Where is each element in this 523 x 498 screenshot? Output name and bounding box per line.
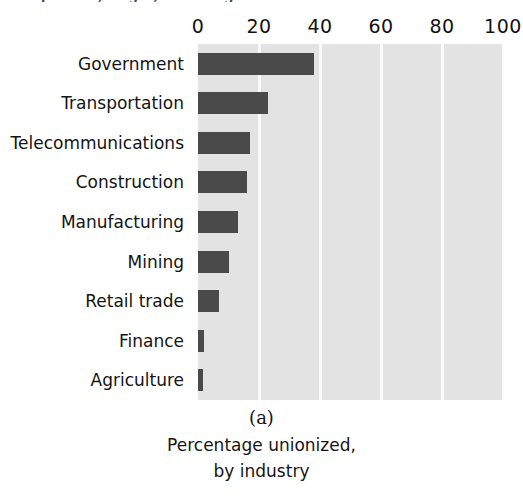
x-tick-label: 0 [192,14,205,38]
gridline [319,44,322,400]
gridline [380,44,383,400]
bar [198,211,238,233]
caption-line-1: Percentage unionized, [0,432,523,458]
category-label: Telecommunications [11,133,184,153]
x-tick-label: 80 [429,14,454,38]
gridline [502,44,504,400]
category-label: Transportation [61,93,184,113]
x-tick-label: 40 [307,14,332,38]
caption-letter: (a) [0,404,523,432]
category-label: Agriculture [91,370,185,390]
bar [198,369,203,391]
x-tick-label: 20 [246,14,271,38]
bar-chart-figure: 020406080100 GovernmentTransportationTel… [0,0,523,498]
bar [198,290,219,312]
bar [198,171,247,193]
gridline [441,44,444,400]
category-label: Government [78,54,184,74]
category-label: Retail trade [85,291,184,311]
plot-area [198,44,503,400]
figure-caption: (a) Percentage unionized, by industry [0,404,523,484]
bar [198,330,204,352]
bar [198,53,314,75]
bar [198,251,229,273]
category-label: Construction [76,172,184,192]
caption-line-2: by industry [0,458,523,484]
x-axis-tick-labels: 020406080100 [198,14,503,42]
x-tick-label: 100 [484,14,522,38]
category-label: Manufacturing [61,212,184,232]
category-label: Finance [119,331,184,351]
category-label: Mining [128,252,184,272]
y-axis-category-labels: GovernmentTransportationTelecommunicatio… [0,44,192,400]
x-tick-label: 60 [368,14,393,38]
bar [198,92,268,114]
bar [198,132,250,154]
